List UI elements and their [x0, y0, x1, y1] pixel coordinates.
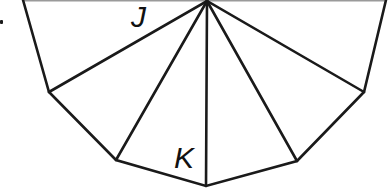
diagonal-2 [116, 1, 207, 160]
diagonal-j [49, 1, 207, 92]
diagonal-k [206, 1, 207, 186]
label-k: K [174, 143, 194, 173]
diagonal-5 [207, 1, 364, 92]
outer-boundary [23, 0, 386, 186]
label-j: J [131, 2, 146, 32]
diagonal-4 [207, 1, 297, 161]
margin-dot [0, 20, 3, 24]
